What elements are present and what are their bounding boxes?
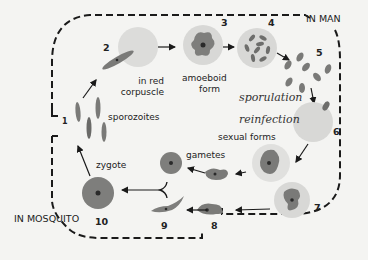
stage-number-8: 8 (211, 220, 218, 231)
stage-number-6: 6 (333, 126, 340, 137)
stage-number-7: 7 (314, 202, 321, 213)
stage-number-1: 1 (62, 117, 68, 126)
sporozoites-icon (75, 97, 107, 142)
region-label-mosquito: IN MOSQUITO (14, 214, 79, 224)
stage-number-10: 10 (95, 216, 108, 227)
ookinete-icon (151, 196, 184, 212)
red-cell-2 (118, 27, 158, 67)
label-sporulation: sporulation (239, 91, 302, 104)
stage-number-9: 9 (161, 220, 168, 231)
gamete-upper (205, 168, 228, 180)
label-form: form (199, 84, 220, 94)
label-in-red: in red (130, 76, 164, 86)
merozoites-icon (283, 51, 333, 93)
label-amoeboid: amoeboid (182, 73, 227, 83)
label-gametes: gametes (186, 150, 225, 160)
label-sporozoites: sporozoites (108, 112, 159, 122)
stage-8-form (197, 204, 223, 215)
label-zygote: zygote (96, 160, 126, 170)
label-sexual-forms: sexual forms (218, 132, 276, 142)
label-corpuscle: corpuscle (118, 87, 164, 97)
stage-number-5: 5 (316, 47, 323, 58)
stage-number-2: 2 (103, 42, 110, 53)
region-label-man: IN MAN (306, 14, 341, 24)
fusion-fork (160, 182, 167, 198)
label-reinfection: reinfection (239, 113, 300, 126)
stage-number-4: 4 (268, 17, 275, 28)
stage-number-3: 3 (221, 17, 228, 28)
